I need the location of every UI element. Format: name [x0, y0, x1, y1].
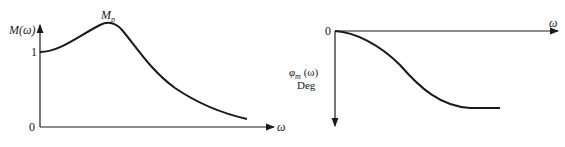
phase-x-label: ω — [549, 17, 557, 29]
phase-curve — [335, 31, 500, 108]
peak-label: Mp — [101, 9, 115, 24]
magnitude-curve — [40, 23, 247, 119]
magnitude-x-label: ω — [277, 121, 285, 133]
phase-tick-zero: 0 — [325, 25, 331, 37]
magnitude-tick-one: 1 — [31, 46, 37, 58]
magnitude-tick-zero: 0 — [29, 121, 35, 133]
phase-plot — [335, 31, 558, 126]
magnitude-y-label: M(ω) — [9, 24, 35, 36]
magnitude-plot — [40, 23, 274, 127]
phase-y-unit: Deg — [297, 80, 315, 91]
